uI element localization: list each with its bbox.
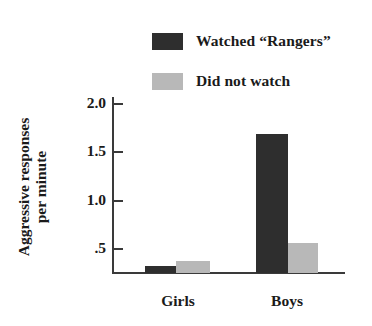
y-tick-label-1-0: 1.0 bbox=[62, 192, 106, 208]
y-tick-label-0-5: .5 bbox=[62, 240, 106, 256]
x-axis-label-girls: Girls bbox=[143, 293, 213, 309]
y-tick-label-1-5: 1.5 bbox=[62, 143, 106, 159]
bar-girls-watched-rangers bbox=[145, 266, 176, 273]
y-tick-mark-0-5 bbox=[112, 248, 123, 250]
bar-girls-did-not-watch bbox=[176, 261, 210, 273]
plot-area: 2.0 1.5 1.0 .5 Girls Boys bbox=[0, 0, 372, 326]
bar-boys-watched-rangers bbox=[256, 134, 288, 273]
bar-chart-figure: Watched “Rangers” Did not watch Aggressi… bbox=[0, 0, 372, 326]
y-tick-mark-1-5 bbox=[112, 151, 123, 153]
x-axis-label-boys: Boys bbox=[252, 293, 322, 309]
bar-boys-did-not-watch bbox=[288, 243, 318, 273]
y-tick-mark-2-0 bbox=[112, 103, 123, 105]
y-tick-mark-1-0 bbox=[112, 200, 123, 202]
y-tick-label-2-0: 2.0 bbox=[62, 95, 106, 111]
